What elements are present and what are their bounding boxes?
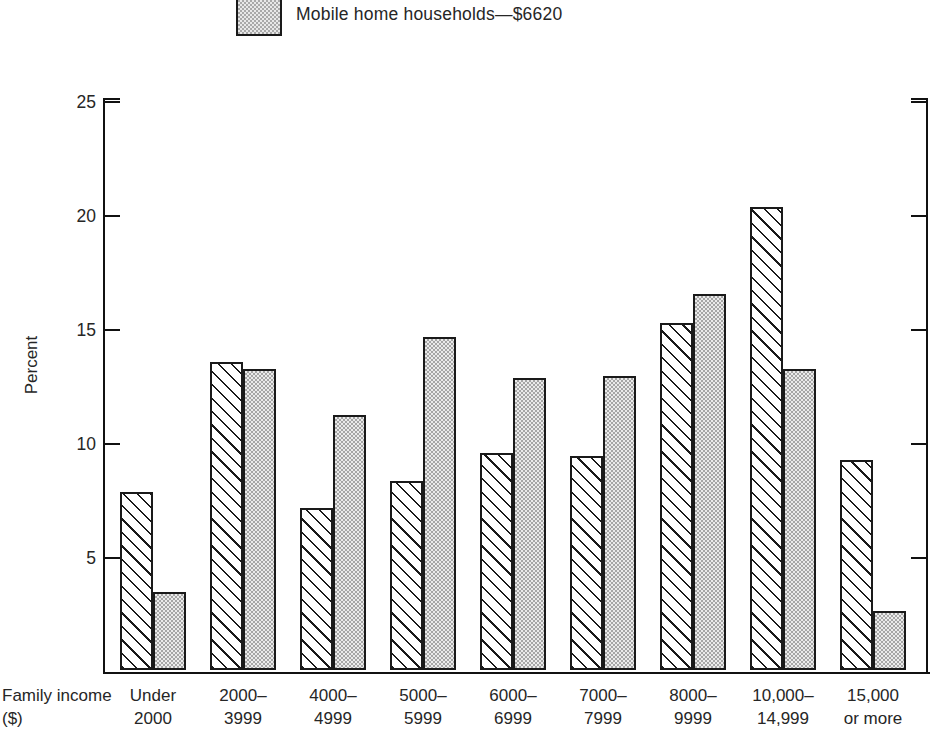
y-tick-left-15 — [105, 329, 120, 331]
x-tick-label: 15,000or more — [813, 684, 933, 730]
bar — [153, 592, 186, 670]
y-tick-label-20: 20 — [77, 206, 96, 227]
bar — [390, 481, 423, 670]
bar — [333, 415, 366, 670]
x-axis-title-line1: Family — [2, 686, 52, 705]
y-axis-tick-labels: 510152025 — [58, 98, 96, 674]
y-tick-left-20 — [105, 215, 120, 217]
bar — [840, 460, 873, 670]
bar — [750, 207, 783, 670]
y-tick-label-15: 15 — [77, 320, 96, 341]
bar — [693, 294, 726, 670]
bar-group — [840, 96, 906, 670]
bar — [120, 492, 153, 670]
bar — [603, 376, 636, 670]
y-tick-label-10: 10 — [77, 434, 96, 455]
chart-legend: Mobile home households—$6620 — [236, 0, 562, 36]
x-tick-label-line: or more — [813, 707, 933, 730]
y-tick-right-10 — [911, 443, 926, 445]
bar-group — [750, 96, 816, 670]
bar-group — [660, 96, 726, 670]
y-axis-line — [103, 98, 105, 674]
y-tick-label-25: 25 — [77, 92, 96, 113]
legend-label: Mobile home households—$6620 — [296, 4, 562, 25]
y-tick-right-25 — [911, 101, 926, 103]
y-tick-right-20 — [911, 215, 926, 217]
bar — [783, 369, 816, 670]
bar-group — [210, 96, 276, 670]
bar — [873, 611, 906, 670]
y-tick-left-10 — [105, 443, 120, 445]
plot-area — [103, 98, 928, 672]
bar-group — [480, 96, 546, 670]
bar — [513, 378, 546, 670]
bar-group — [570, 96, 636, 670]
y-tick-left-25 — [105, 101, 120, 103]
bar-group — [120, 96, 186, 670]
y-tick-right-25 — [911, 98, 926, 100]
x-tick-label-line: 15,000 — [813, 684, 933, 707]
y-tick-left-25 — [105, 98, 120, 100]
y-tick-label-5: 5 — [86, 548, 96, 569]
dotted-swatch-icon — [236, 0, 282, 36]
right-axis-line — [926, 98, 928, 674]
bar — [300, 508, 333, 670]
bar — [243, 369, 276, 670]
bar-group — [300, 96, 366, 670]
bar-group — [390, 96, 456, 670]
bar — [423, 337, 456, 670]
y-tick-right-5 — [911, 557, 926, 559]
x-axis-line — [103, 672, 930, 674]
bar — [570, 456, 603, 670]
bar — [480, 453, 513, 670]
y-tick-left-5 — [105, 557, 120, 559]
y-tick-right-15 — [911, 329, 926, 331]
bar — [660, 323, 693, 670]
y-axis-title: Percent — [22, 325, 42, 405]
bar — [210, 362, 243, 670]
